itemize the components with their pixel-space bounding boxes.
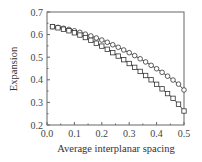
marker-circle (116, 45, 121, 50)
marker-circle (182, 88, 187, 93)
y-tick-label: 0.4 (31, 74, 44, 85)
marker-circle (94, 36, 99, 41)
series-squares (50, 24, 186, 113)
marker-square (61, 27, 65, 31)
y-tick-label: 0.3 (31, 97, 44, 108)
marker-square (83, 35, 87, 39)
marker-square (72, 31, 76, 35)
series-layer (50, 24, 186, 113)
marker-circle (154, 66, 159, 71)
marker-circle (121, 48, 126, 53)
marker-square (154, 82, 158, 86)
marker-circle (89, 34, 94, 39)
marker-square (94, 41, 98, 45)
x-tick-label: 0.5 (178, 128, 191, 139)
marker-circle (138, 56, 143, 61)
marker-square (122, 57, 126, 61)
marker-circle (100, 38, 105, 43)
marker-square (116, 54, 120, 58)
x-tick-label: 0.1 (68, 128, 81, 139)
marker-square (149, 78, 153, 82)
marker-square (56, 26, 60, 30)
marker-circle (143, 60, 148, 65)
y-tick-label: 0.7 (31, 7, 44, 18)
marker-square (111, 50, 115, 54)
marker-circle (176, 82, 181, 87)
y-tick-label: 0.5 (31, 52, 44, 63)
marker-square (127, 61, 131, 65)
marker-circle (160, 70, 165, 75)
marker-circle (105, 40, 110, 45)
marker-square (50, 24, 54, 28)
marker-square (171, 96, 175, 100)
marker-circle (171, 78, 176, 83)
marker-square (138, 69, 142, 73)
marker-circle (132, 53, 137, 58)
x-tick-label: 0.3 (123, 128, 136, 139)
marker-square (89, 38, 93, 42)
x-tick-label: 0.2 (96, 128, 109, 139)
marker-square (105, 47, 109, 51)
x-axis-label: Average interplanar spacing (57, 143, 175, 154)
marker-square (100, 44, 104, 48)
marker-circle (127, 50, 132, 55)
marker-square (176, 102, 180, 106)
marker-square (67, 29, 71, 33)
marker-square (160, 87, 164, 91)
marker-circle (165, 74, 170, 79)
y-axis-label: Expansion (8, 46, 19, 91)
marker-square (78, 33, 82, 37)
marker-square (165, 91, 169, 95)
marker-circle (149, 63, 154, 68)
marker-square (143, 73, 147, 77)
marker-square (132, 65, 136, 69)
y-tick-label: 0.6 (31, 29, 44, 40)
marker-circle (110, 42, 115, 47)
x-tick-label: 0.0 (41, 128, 54, 139)
marker-square (182, 109, 186, 113)
chart-area: 0.20.30.40.50.60.7 0.00.10.20.30.40.5 Ex… (0, 0, 202, 162)
x-tick-label: 0.4 (150, 128, 163, 139)
